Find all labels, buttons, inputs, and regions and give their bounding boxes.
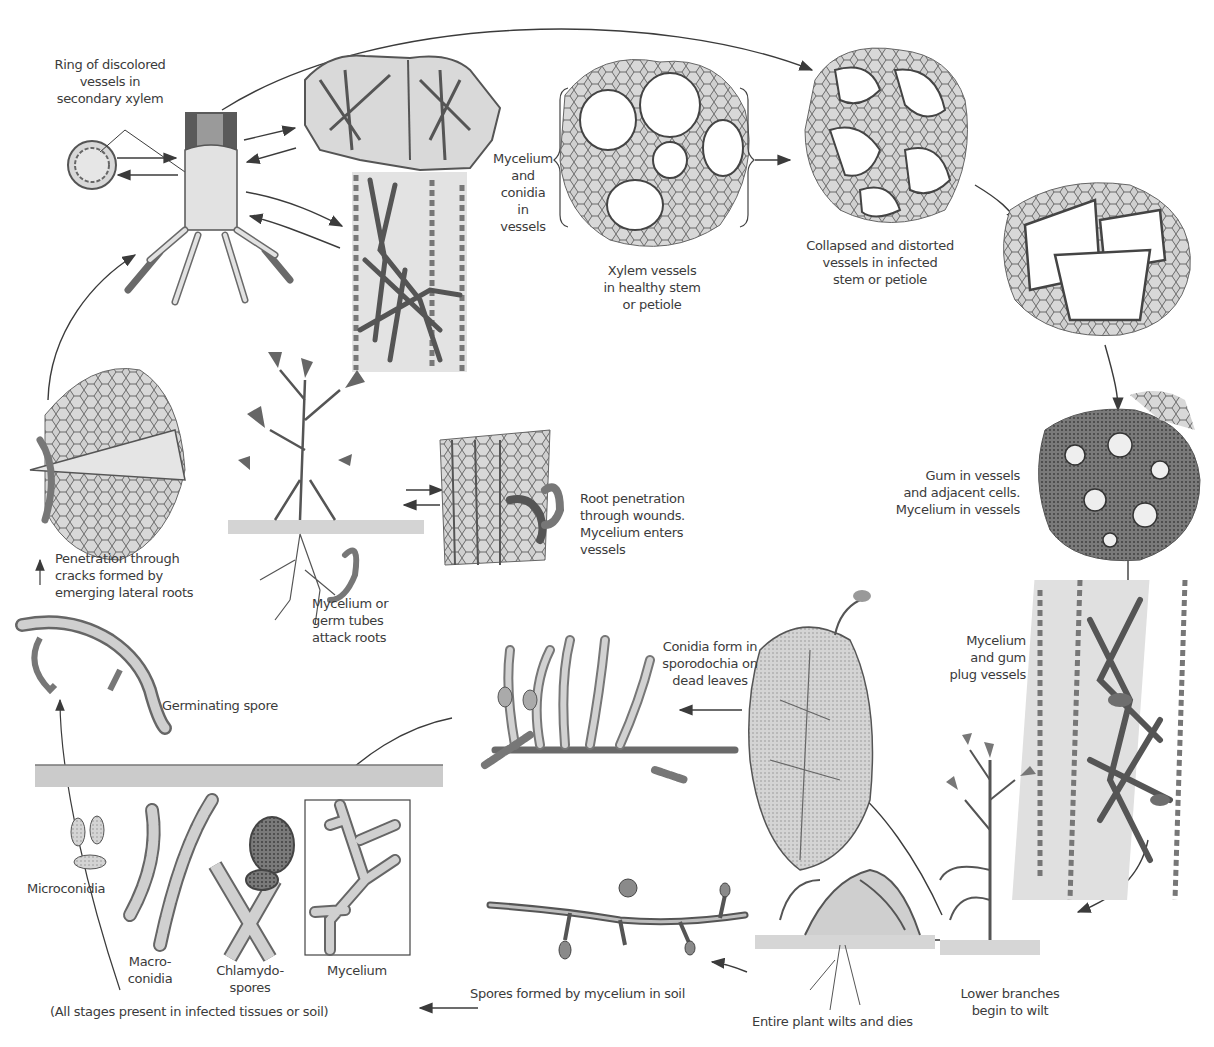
healthy-xylem-cross-section	[554, 59, 754, 246]
infected-stem-and-roots	[128, 112, 290, 302]
label-collapsed-distorted-vessels: Collapsed and distorted vessels in infec…	[790, 237, 970, 288]
label-entire-plant-wilts: Entire plant wilts and dies	[752, 1013, 952, 1030]
germinating-spore-illustration	[22, 622, 165, 728]
soil-surface	[35, 765, 443, 787]
vessel-longitudinal-mycelium	[352, 172, 467, 372]
label-spores-formed-soil: Spores formed by mycelium in soil	[470, 985, 730, 1002]
label-gum-in-vessels: Gum in vessels and adjacent cells. Mycel…	[880, 467, 1020, 518]
label-conidia-sporodochia: Conidia form in sporodochia on dead leav…	[640, 638, 780, 689]
label-macroconidia: Macro- conidia	[115, 953, 185, 987]
label-mycelium-germ-tubes: Mycelium or germ tubes attack roots	[312, 595, 422, 646]
distorted-vessels-cross-section	[1004, 183, 1191, 336]
label-root-penetration-wounds: Root penetration through wounds. Myceliu…	[580, 490, 730, 558]
label-microconidia: Microconidia	[27, 880, 127, 897]
label-mycelium-gum-plug: Mycelium and gum plug vessels	[940, 632, 1026, 683]
gum-filled-vessels-cross-section	[1039, 391, 1200, 561]
microconidia-illustration	[71, 816, 106, 869]
label-xylem-healthy-stem: Xylem vessels in healthy stem or petiole	[592, 262, 712, 313]
infected-cells-cross-section	[305, 56, 500, 171]
fusarium-wilt-disease-cycle: Ring of discolored vessels in secondary …	[0, 0, 1214, 1047]
root-wound-penetration	[440, 430, 560, 565]
label-germinating-spore: Germinating spore	[162, 697, 322, 714]
macroconidia-illustration	[130, 800, 212, 945]
dead-leaf-sporodochia	[749, 590, 873, 870]
chlamydospores-illustration	[215, 817, 294, 958]
lateral-root-crack-penetration	[30, 368, 185, 560]
plugged-vessels-longitudinal	[1012, 580, 1185, 900]
mycelium-illustration	[305, 800, 410, 955]
label-lower-branches-wilt: Lower branches begin to wilt	[955, 985, 1065, 1019]
label-mycelium: Mycelium	[312, 962, 402, 979]
ring-cross-section	[68, 130, 185, 189]
collapsed-vessels-cross-section	[805, 48, 968, 223]
label-ring-discolored-vessels: Ring of discolored vessels in secondary …	[40, 56, 180, 107]
label-all-stages-present: (All stages present in infected tissues …	[50, 1003, 390, 1020]
label-chlamydospores: Chlamydo- spores	[205, 962, 295, 996]
young-plant-with-roots	[228, 352, 424, 625]
plant-entire-wilted	[755, 870, 935, 1010]
soil-mycelium-spores	[490, 879, 745, 959]
label-mycelium-conidia-in-vessels: Mycelium and conidia in vessels	[483, 150, 563, 235]
label-penetration-through-cracks: Penetration through cracks formed by eme…	[55, 550, 235, 601]
